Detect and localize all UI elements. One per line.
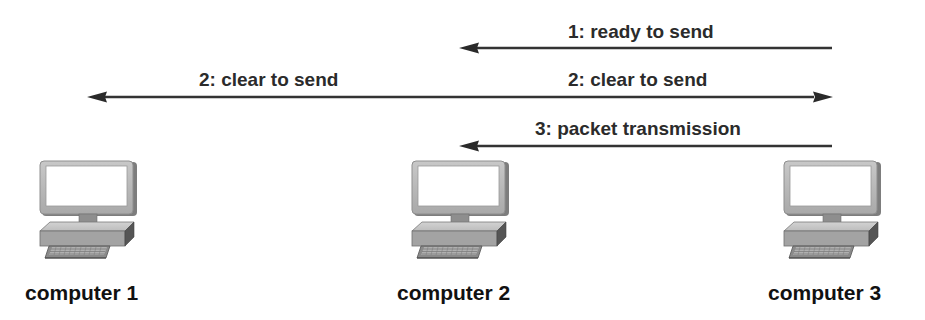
message-label-clear-to-send-right: 2: clear to send [568,70,707,90]
message-label-packet-transmission: 3: packet transmission [535,119,741,139]
computer-3-icon [784,161,881,258]
computer-2-icon [412,161,509,258]
diagram-canvas [0,0,925,320]
arrow-packet-transmission [459,141,832,152]
arrow-ready-to-send [459,43,832,54]
message-label-ready-to-send: 1: ready to send [568,22,714,42]
node-label-computer-3: computer 3 [768,282,881,304]
arrow-clear-to-send [87,92,833,103]
computer-1-icon [40,161,137,258]
node-label-computer-1: computer 1 [25,282,138,304]
message-label-clear-to-send-left: 2: clear to send [199,70,338,90]
node-label-computer-2: computer 2 [397,282,510,304]
